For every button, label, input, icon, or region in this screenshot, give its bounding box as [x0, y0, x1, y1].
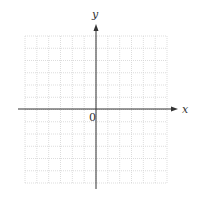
origin-label: 0: [89, 111, 96, 124]
x-axis-arrow-icon: [171, 107, 178, 112]
y-axis-label: y: [91, 8, 99, 21]
x-axis-label: x: [182, 103, 189, 116]
coordinate-plane: x y 0: [0, 0, 201, 197]
y-axis-arrow-icon: [94, 24, 99, 31]
